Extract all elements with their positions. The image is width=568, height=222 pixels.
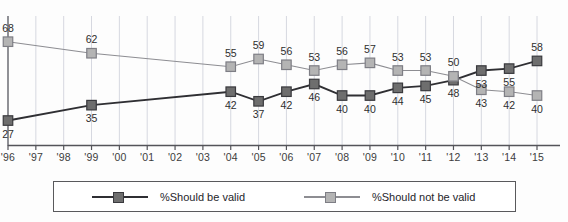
x-tick-label: '05	[251, 151, 265, 163]
line-chart: 2735423742464040444548535558686255595653…	[0, 0, 568, 222]
x-tick-label: '00	[112, 151, 126, 163]
data-point-marker	[449, 72, 459, 82]
data-point-marker	[87, 48, 97, 58]
x-tick-label: '06	[279, 151, 293, 163]
legend-item-should-be-valid[interactable]: %Should be valid	[92, 182, 245, 211]
data-point-marker	[477, 66, 487, 76]
plot-area	[0, 16, 568, 146]
data-point-marker	[3, 37, 13, 47]
x-tick-label: '11	[419, 151, 433, 163]
data-point-marker	[282, 60, 292, 69]
data-point-marker	[393, 83, 403, 93]
data-point-marker	[504, 64, 514, 74]
series-markers	[3, 37, 542, 125]
data-point-marker	[393, 66, 403, 76]
data-point-marker	[532, 56, 542, 66]
x-tick-label: '09	[363, 151, 377, 163]
data-point-marker	[365, 58, 375, 68]
series-line	[8, 61, 537, 121]
data-point-marker	[254, 97, 264, 107]
data-point-marker	[337, 60, 347, 69]
legend-item-should-not-be-valid[interactable]: %Should not be valid	[304, 182, 475, 211]
data-point-marker	[532, 91, 542, 101]
x-tick-label: '10	[391, 151, 405, 163]
x-tick-label: '08	[335, 151, 349, 163]
x-tick-label: '96	[1, 151, 15, 163]
x-tick-label: '97	[29, 151, 43, 163]
data-point-marker	[226, 62, 236, 72]
x-tick-label: '07	[307, 151, 321, 163]
legend: %Should be valid %Should not be valid	[53, 181, 516, 212]
x-tick-label: '15	[530, 151, 544, 163]
data-point-marker	[310, 66, 320, 76]
x-tick-label: '01	[140, 151, 154, 163]
data-point-marker	[421, 81, 431, 91]
data-point-marker	[254, 54, 264, 64]
data-point-marker	[421, 66, 431, 76]
legend-swatch-icon-0	[92, 190, 148, 204]
x-tick-label: '04	[224, 151, 238, 163]
legend-label-1: %Should not be valid	[372, 191, 475, 203]
x-tick-label: '13	[474, 151, 488, 163]
legend-swatch-icon-1	[304, 190, 360, 204]
x-tick-label: '03	[196, 151, 210, 163]
data-point-marker	[226, 87, 236, 97]
data-point-marker	[3, 116, 13, 126]
data-point-marker	[310, 79, 320, 89]
plot-svg	[0, 16, 568, 146]
x-tick-label: '99	[84, 151, 98, 163]
x-tick-label: '98	[57, 151, 71, 163]
data-point-marker	[87, 100, 97, 110]
x-tick-label: '14	[502, 151, 516, 163]
data-point-marker	[337, 91, 347, 101]
data-point-marker	[504, 87, 514, 97]
x-axis: '96'97'98'99'00'01'02'03'04'05'06'07'08'…	[0, 148, 568, 168]
legend-label-0: %Should be valid	[160, 191, 245, 203]
x-tick-label: '02	[168, 151, 182, 163]
data-point-marker	[477, 85, 487, 95]
data-point-marker	[365, 91, 375, 101]
data-point-marker	[282, 87, 292, 97]
x-tick-label: '12	[446, 151, 460, 163]
